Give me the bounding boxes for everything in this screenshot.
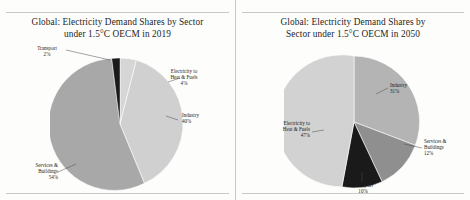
leader-line-electricity <box>312 130 324 132</box>
pie-label-transport-2019: Transport 2% <box>25 45 69 57</box>
panel-divider-bottom-right <box>242 193 464 194</box>
pie-label-industry-2019: Industry 40% <box>182 112 226 124</box>
panel-divider-top-left <box>6 12 229 13</box>
chart-panel-2019: Global: Electricity Demand Shares by Sec… <box>0 0 235 200</box>
pie-label-electricity-2019-line2: Heat & Fuels <box>170 74 197 80</box>
chart-title-2019: Global: Electricity Demand Shares by Sec… <box>10 16 225 40</box>
pie-plot-2019: Transport 2% Electricity to Heat & Fuels… <box>0 40 235 200</box>
pie-label-industry-2050-pct: 31% <box>390 88 434 94</box>
pie-label-electricity-2050-pct: 47% <box>248 132 310 138</box>
leader-line-industry <box>376 88 388 94</box>
leader-line-services <box>58 164 76 172</box>
chart-title-2019-line1: Global: Electricity Demand Shares by Sec… <box>32 17 204 27</box>
figure-two-pie-charts: Global: Electricity Demand Shares by Sec… <box>0 0 470 200</box>
pie-label-industry-2050-name: Industry <box>390 82 407 88</box>
pie-label-transport-2050-name: Transport <box>353 182 373 188</box>
panel-divider-bottom-left <box>6 193 229 194</box>
pie-label-electricity-heat-fuels-2019: Electricity to Heat & Fuels 4% <box>160 68 208 87</box>
pie-label-services-2019-line1: Services & <box>36 162 59 168</box>
pie-label-services-buildings-2019: Services & Buildings 54% <box>6 162 58 181</box>
pie-label-services-2019-line2: Buildings <box>38 168 58 174</box>
pie-label-electricity-2050-line1: Electricity to <box>284 120 310 126</box>
pie-label-services-2050-line2: Buildings <box>424 144 444 150</box>
pie-label-electricity-heat-fuels-2050: Electricity to Heat & Fuels 47% <box>248 120 310 139</box>
panel-divider-top-right <box>242 12 464 13</box>
chart-title-2050-line1: Global: Electricity Demand Shares by <box>280 17 425 27</box>
pie-label-industry-2050: Industry 31% <box>390 82 434 94</box>
leader-line-industry <box>166 116 178 120</box>
chart-panel-2050: Global: Electricity Demand Shares by Sec… <box>235 0 470 200</box>
chart-title-2050-line2: Sector under 1.5°C OECM in 2050 <box>286 29 420 39</box>
pie-label-industry-2019-name: Industry <box>182 112 199 118</box>
pie-label-services-buildings-2050: Services & Buildings 12% <box>424 138 470 157</box>
pie-label-electricity-2050-line2: Heat & Fuels <box>283 126 310 132</box>
pie-plot-2050: Industry 31% Electricity to Heat & Fuels… <box>236 40 470 200</box>
leader-line-services <box>404 144 422 148</box>
pie-label-services-2050-pct: 12% <box>424 150 470 156</box>
chart-title-2050: Global: Electricity Demand Shares by Sec… <box>246 16 460 40</box>
pie-label-electricity-2019-line1: Electricity to <box>171 68 197 74</box>
pie-label-transport-2019-pct: 2% <box>25 51 69 57</box>
pie-label-services-2019-pct: 54% <box>6 174 58 180</box>
pie-label-electricity-2019-pct: 4% <box>160 80 208 86</box>
leader-line-transport <box>66 50 110 60</box>
pie-label-industry-2019-pct: 40% <box>182 118 226 124</box>
pie-label-services-2050-line1: Services & <box>424 138 447 144</box>
chart-title-2019-line2: under 1.5°C OECM in 2019 <box>64 29 171 39</box>
pie-label-transport-2019-name: Transport <box>37 45 57 51</box>
